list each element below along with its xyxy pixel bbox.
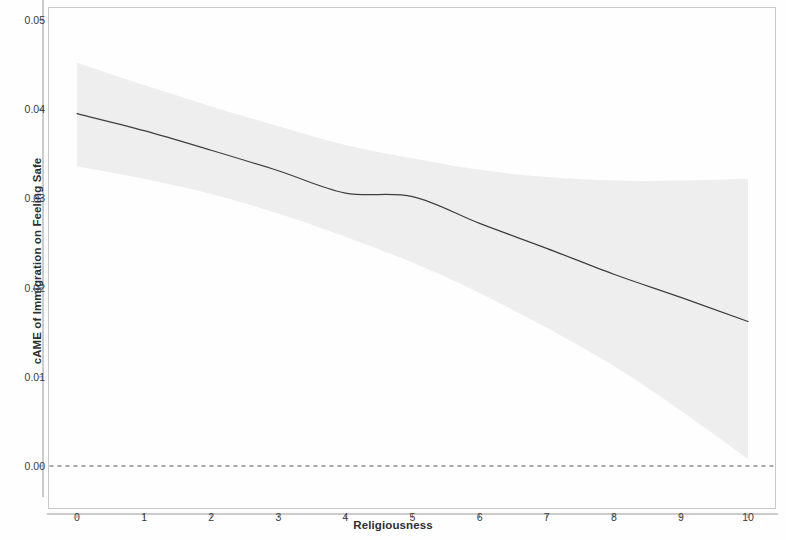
- y-axis-title: cAME of Immigration on Feeling Safe: [31, 121, 43, 401]
- x-tick-label-3: 3: [275, 511, 281, 523]
- x-tick-label-10: 10: [742, 511, 754, 523]
- y-tick-label-3: 0.03: [25, 192, 45, 204]
- y-tick-label-0: 0.00: [25, 460, 45, 472]
- x-tick-label-4: 4: [342, 511, 348, 523]
- x-tick-label-7: 7: [544, 511, 550, 523]
- x-tick-label-2: 2: [208, 511, 214, 523]
- x-tick-label-6: 6: [477, 511, 483, 523]
- x-tick-label-1: 1: [141, 511, 147, 523]
- y-tick-label-5: 0.05: [25, 14, 45, 26]
- x-tick-label-0: 0: [74, 511, 80, 523]
- x-axis-title: Religiousness: [0, 519, 786, 531]
- x-tick-label-8: 8: [611, 511, 617, 523]
- x-tick-label-5: 5: [410, 511, 416, 523]
- figure-canvas: Religiousness cAME of Immigration on Fee…: [0, 0, 786, 540]
- y-tick-label-1: 0.01: [25, 371, 45, 383]
- plot-area: [0, 0, 786, 540]
- y-tick-label-4: 0.04: [25, 103, 45, 115]
- x-tick-label-9: 9: [678, 511, 684, 523]
- confidence-interval-band: [77, 63, 748, 459]
- y-tick-label-2: 0.02: [25, 282, 45, 294]
